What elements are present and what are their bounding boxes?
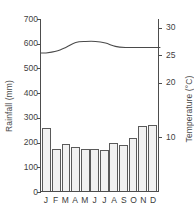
y-axis-left-tick-label: 700 (24, 15, 38, 24)
temperature-curve-path (41, 41, 160, 53)
y-axis-left-tickmark (37, 192, 41, 193)
x-axis-month-label: D (149, 194, 158, 208)
x-axis-month-label: F (51, 194, 60, 208)
y-axis-right-title: Temperature (°C) (184, 57, 194, 161)
y-axis-left-tick-label: 300 (24, 113, 38, 122)
x-axis-month-label: J (41, 194, 50, 208)
x-axis-month-label: O (129, 194, 138, 208)
y-axis-right-tick-label: 20 (166, 78, 175, 87)
x-axis-month-label: S (119, 194, 128, 208)
y-axis-right-tickmark (158, 28, 162, 29)
climograph-figure: Rainfall (mm) 7006005004003002001000 302… (0, 0, 194, 217)
y-axis-left-tick-label: 200 (24, 138, 38, 147)
y-axis-left-tick-label: 600 (24, 39, 38, 48)
y-axis-left-tickmark (37, 167, 41, 168)
x-axis-month-label: M (61, 194, 70, 208)
y-axis-left-tickmark (37, 68, 41, 69)
y-axis-right-tickmark (158, 83, 162, 84)
x-axis-month-label: A (71, 194, 80, 208)
y-axis-left-tickmark (37, 93, 41, 94)
x-axis-month-label: M (80, 194, 89, 208)
y-axis-left-tickmark (37, 143, 41, 144)
y-axis-left-tick-label: 500 (24, 64, 38, 73)
y-axis-left-tick-label: 400 (24, 89, 38, 98)
y-axis-left-tickmark (37, 118, 41, 119)
x-axis-month-label: N (139, 194, 148, 208)
plot-area (40, 19, 159, 192)
x-axis-month-labels: JFMAMJJASOND (40, 194, 159, 208)
y-axis-right-tickmark (158, 137, 162, 138)
y-axis-left-tickmark (37, 44, 41, 45)
y-axis-left-title: Rainfall (mm) (4, 58, 14, 154)
y-axis-right-tickmark (158, 55, 162, 56)
temperature-line-series (41, 19, 160, 192)
y-axis-right-tick-label: 25 (166, 51, 175, 60)
y-axis-right-tick-label: 10 (166, 133, 175, 142)
y-axis-left-tickmark (37, 19, 41, 20)
y-axis-right-tick-label: 30 (166, 23, 175, 32)
x-axis-month-label: J (100, 194, 109, 208)
x-axis-month-label: A (110, 194, 119, 208)
y-axis-left-ticks: 7006005004003002001000 (14, 0, 38, 217)
y-axis-left-tick-label: 100 (24, 163, 38, 172)
x-axis-month-label: J (90, 194, 99, 208)
